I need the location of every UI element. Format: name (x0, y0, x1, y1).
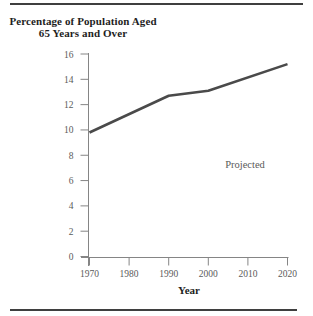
bottom-rule (10, 309, 297, 311)
x-axis-title: Year (90, 284, 288, 296)
y-tick-label: 14 (64, 75, 74, 85)
y-tick-label: 8 (69, 151, 74, 161)
x-tick-label: 2020 (278, 269, 297, 279)
data-line (90, 64, 288, 132)
y-tick-label: 16 (64, 50, 74, 60)
y-tick-label: 0 (69, 252, 74, 262)
y-tick-label: 12 (64, 100, 74, 110)
x-tick-label: 2010 (238, 269, 257, 279)
y-tick-label: 4 (69, 201, 74, 211)
x-tick-label: 2000 (199, 269, 218, 279)
line-chart: 0246810121416197019801990200020102020 (0, 0, 313, 316)
x-tick-label: 1980 (120, 269, 139, 279)
y-tick-label: 6 (69, 176, 74, 186)
y-tick-label: 2 (69, 227, 74, 237)
projected-annotation: Projected (205, 159, 285, 170)
y-tick-label: 10 (64, 125, 74, 135)
x-tick-label: 1990 (159, 269, 178, 279)
x-tick-label: 1970 (80, 269, 99, 279)
